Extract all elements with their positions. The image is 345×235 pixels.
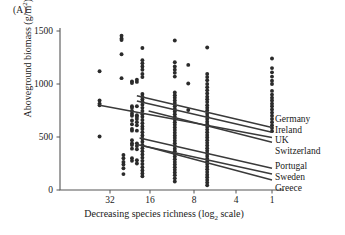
- data-point: [173, 180, 177, 184]
- data-point: [205, 78, 209, 82]
- data-point: [130, 114, 134, 118]
- data-point: [270, 66, 274, 70]
- data-point: [205, 183, 209, 187]
- data-point: [130, 147, 134, 151]
- data-point: [270, 82, 274, 86]
- data-point: [135, 147, 139, 151]
- x-tick-label: 8: [192, 195, 197, 205]
- data-point: [173, 39, 177, 43]
- data-point: [173, 75, 177, 79]
- data-point: [140, 68, 144, 72]
- legend-item-uk: UK: [275, 135, 320, 146]
- data-point: [120, 52, 124, 56]
- y-tick-label: 1500: [34, 26, 53, 36]
- legend-item-switzerland: Switzerland: [275, 146, 320, 157]
- y-tick-label: 1000: [34, 79, 53, 89]
- data-point: [130, 159, 134, 163]
- regression-line-germany: [137, 96, 272, 128]
- data-point: [135, 104, 139, 108]
- x-tick-label: 16: [145, 195, 155, 205]
- data-point: [140, 46, 144, 50]
- data-point: [130, 81, 134, 85]
- data-point: [122, 156, 126, 160]
- axis-tick-marks: [57, 31, 273, 194]
- data-point: [98, 135, 102, 139]
- data-point: [135, 162, 139, 166]
- data-point: [98, 69, 102, 73]
- legend: Germany Ireland UK Switzerland Portugal …: [275, 114, 320, 193]
- data-point: [122, 163, 126, 167]
- figure-panel-a: (A) Aboveground biomass (g/m2) Decreasin…: [0, 0, 345, 235]
- y-tick-label: 500: [39, 132, 54, 142]
- legend-item-germany: Germany: [275, 114, 320, 125]
- y-tick-label: 0: [48, 185, 53, 195]
- data-point: [173, 60, 177, 64]
- data-point: [135, 80, 139, 84]
- data-point: [130, 122, 134, 126]
- data-point: [270, 57, 274, 61]
- legend-item-sweden: Sweden: [275, 172, 320, 183]
- y-tick-label-group: 050010001500: [34, 26, 53, 195]
- data-point: [122, 166, 126, 170]
- legend-item-ireland: Ireland: [275, 125, 320, 136]
- data-point: [140, 75, 144, 79]
- x-tick-label-group: 3216841: [105, 195, 274, 205]
- data-point: [130, 129, 134, 133]
- data-point: [130, 119, 134, 123]
- data-point: [120, 38, 124, 42]
- regression-lines-layer: [100, 96, 272, 180]
- data-point: [120, 76, 124, 80]
- data-point: [270, 75, 274, 79]
- data-point: [173, 71, 177, 75]
- data-point: [135, 129, 139, 133]
- data-point: [270, 89, 274, 93]
- x-tick-label: 32: [105, 195, 115, 205]
- data-point: [140, 174, 144, 178]
- data-point: [186, 82, 190, 86]
- x-tick-label: 4: [234, 195, 239, 205]
- legend-item-greece: Greece: [275, 183, 320, 194]
- data-point: [205, 45, 209, 49]
- regression-line-switzerland: [149, 111, 272, 142]
- data-point: [130, 143, 134, 147]
- data-point: [270, 70, 274, 74]
- data-point: [186, 63, 190, 67]
- data-point: [135, 123, 139, 127]
- data-point: [122, 172, 126, 176]
- x-tick-label: 1: [270, 195, 275, 205]
- legend-item-portugal: Portugal: [275, 161, 320, 172]
